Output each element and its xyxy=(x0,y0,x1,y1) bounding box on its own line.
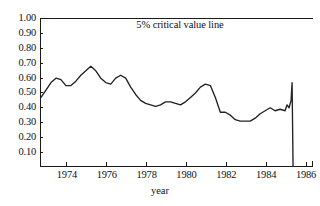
x-tick-label: 1976 xyxy=(97,169,117,181)
y-tick-label: 0.10 xyxy=(18,147,36,158)
x-tick-label: 1986 xyxy=(296,169,316,181)
plot-svg xyxy=(40,16,313,167)
x-axis-title: year xyxy=(0,185,320,197)
y-tick-label: 1.00 xyxy=(18,13,36,24)
x-tick-label: 1982 xyxy=(216,169,236,181)
y-tick-label: 0.30 xyxy=(18,117,36,128)
y-tick-label: 0.40 xyxy=(18,102,36,113)
axis-lines xyxy=(41,19,314,167)
y-tick-label: 0.60 xyxy=(18,73,36,84)
x-tick-label: 1974 xyxy=(57,169,77,181)
x-tick-label: 1980 xyxy=(176,169,196,181)
y-tick-label: 0.50 xyxy=(18,87,36,98)
chart-figure: 5% critical value line 1.00 0.90 0.80 0.… xyxy=(0,0,320,206)
x-tick-label: 1978 xyxy=(137,169,157,181)
y-tick-label: 0.20 xyxy=(18,132,36,143)
x-tick-marks xyxy=(67,162,306,167)
y-tick-label: 0.90 xyxy=(18,28,36,39)
y-tick-label: 0.80 xyxy=(18,43,36,54)
x-axis-tick-labels: 1974 1976 1978 1980 1982 1984 1986 xyxy=(0,169,320,185)
plot-area xyxy=(40,16,313,167)
y-tick-label: 0.70 xyxy=(18,58,36,69)
series-lines xyxy=(41,66,293,167)
x-tick-label: 1984 xyxy=(256,169,276,181)
data-series-line xyxy=(41,66,293,167)
